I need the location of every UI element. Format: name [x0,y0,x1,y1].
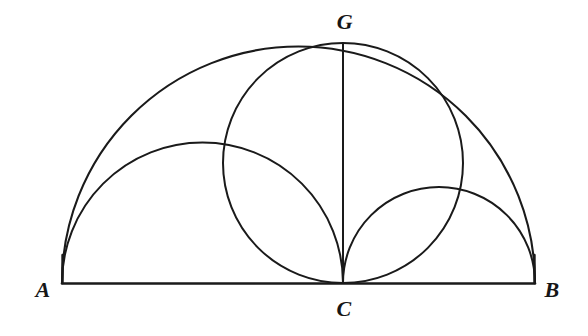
point-label-b: B [544,279,559,301]
point-label-a: A [35,279,50,301]
figure-canvas [0,0,588,336]
geometry-figure: A B C G [0,0,588,336]
semicircle-ac [62,142,343,283]
point-label-g: G [337,11,353,33]
semicircle-ab [62,47,535,284]
point-label-c: C [336,298,351,320]
